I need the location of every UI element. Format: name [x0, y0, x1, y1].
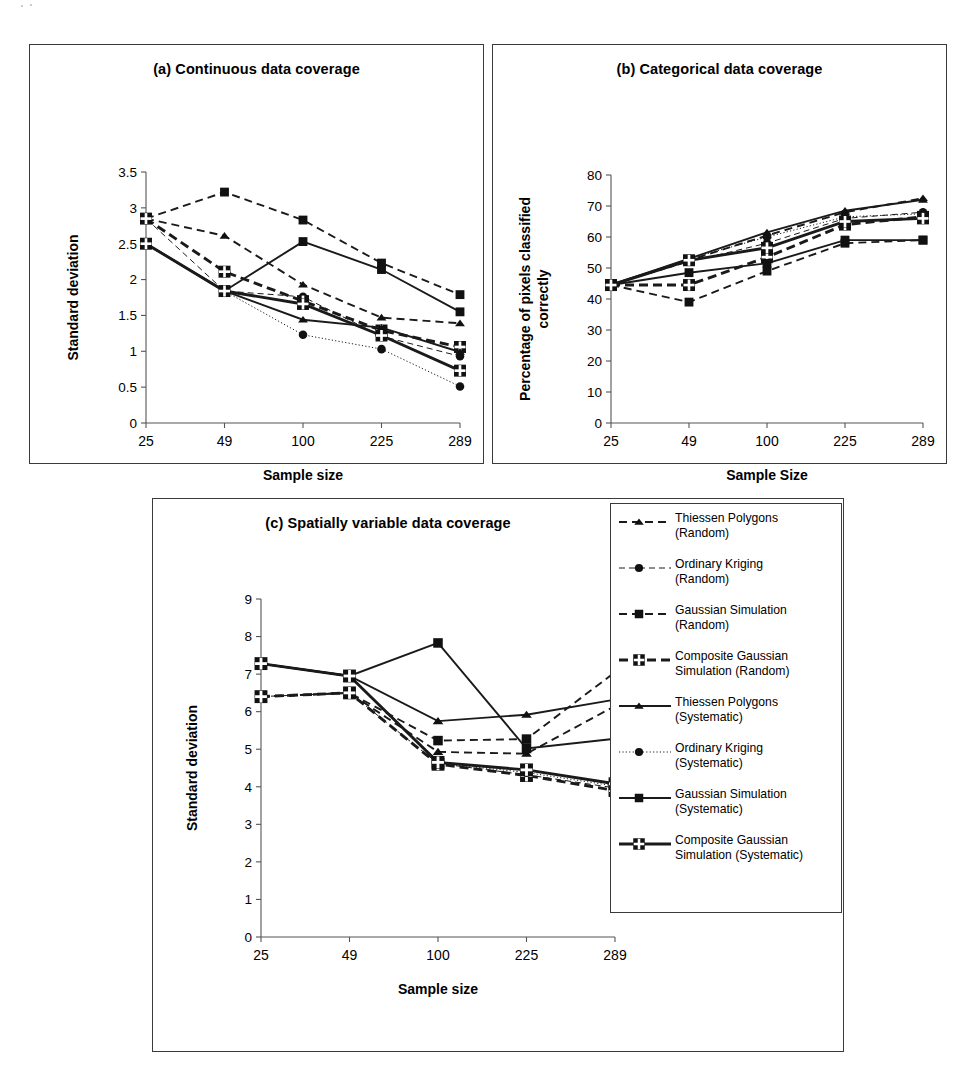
legend-key-ok_rand-icon — [617, 559, 673, 577]
data-point-marker — [761, 242, 773, 254]
data-point-marker — [763, 267, 772, 276]
series-ok_sys — [256, 659, 619, 791]
x-tick-label: 25 — [603, 433, 619, 449]
chart-a-plot-area: 00.511.522.533.52549100225289Sample size… — [30, 45, 485, 465]
y-tick-label: 2.5 — [118, 237, 137, 252]
y-axis-title: Standard deviation — [184, 705, 200, 831]
x-tick-label: 225 — [515, 947, 539, 963]
series-line — [261, 643, 615, 749]
y-tick-label: 3.5 — [118, 165, 137, 180]
legend-key-gs_sys-icon — [617, 789, 673, 807]
y-tick-label: 0 — [594, 416, 602, 431]
x-tick-label: 100 — [291, 433, 315, 449]
series-line — [261, 672, 615, 740]
legend-label-line2: (Random) — [675, 618, 787, 633]
data-point-marker — [220, 188, 229, 197]
series-line — [146, 244, 460, 387]
legend-label-line2: (Systematic) — [675, 802, 787, 817]
data-point-marker — [763, 233, 772, 242]
legend-label-line1: Composite Gaussian — [675, 833, 803, 848]
legend-key-tp_sys-icon — [617, 697, 673, 715]
chart-b-plot-area: 010203040506070802549100225289Sample Siz… — [493, 45, 948, 465]
legend-label-line1: Ordinary Kriging — [675, 557, 763, 572]
data-point-marker — [685, 268, 694, 277]
legend-label-cgs_rand: Composite GaussianSimulation (Random) — [673, 649, 789, 678]
data-point-marker — [919, 236, 928, 245]
legend-item-tp_rand: Thiessen Polygons(Random) — [617, 511, 837, 553]
legend-label-line1: Thiessen Polygons — [675, 511, 778, 526]
legend-item-ok_rand: Ordinary Kriging(Random) — [617, 557, 837, 599]
data-point-marker — [683, 279, 695, 291]
legend-item-cgs_rand: Composite GaussianSimulation (Random) — [617, 649, 837, 691]
x-tick-label: 49 — [342, 947, 358, 963]
x-tick-label: 225 — [370, 433, 394, 449]
legend-label-line1: Gaussian Simulation — [675, 787, 787, 802]
y-tick-label: 60 — [587, 230, 602, 245]
y-tick-label: 3 — [244, 817, 252, 832]
legend-label-line2: (Random) — [675, 572, 763, 587]
data-point-marker — [298, 281, 308, 288]
data-point-marker — [255, 657, 268, 670]
legend-item-gs_sys: Gaussian Simulation(Systematic) — [617, 787, 837, 829]
series-ok_sys — [142, 239, 465, 390]
panel-continuous-data-coverage: (a) Continuous data coverage 00.511.522.… — [29, 44, 484, 464]
y-tick-label: 5 — [244, 742, 252, 757]
data-point-marker — [297, 298, 309, 310]
data-point-marker — [220, 232, 230, 239]
y-tick-label: 20 — [587, 354, 602, 369]
legend-key-tp_rand-icon — [617, 513, 673, 531]
data-point-marker — [377, 265, 386, 274]
data-point-marker — [255, 690, 268, 703]
data-point-marker — [917, 212, 929, 224]
data-point-marker — [377, 345, 386, 354]
x-tick-label: 100 — [426, 947, 450, 963]
legend-label-tp_rand: Thiessen Polygons(Random) — [673, 511, 778, 540]
y-tick-label: 0.5 — [118, 380, 137, 395]
y-tick-label: 7 — [244, 667, 252, 682]
data-point-marker — [841, 236, 850, 245]
y-axis-title-group: Percentage of pixels classifiedcorrectly — [517, 197, 551, 401]
x-tick-label: 225 — [833, 433, 857, 449]
y-tick-label: 6 — [244, 704, 252, 719]
data-point-marker — [432, 756, 445, 769]
data-point-marker — [299, 331, 308, 340]
y-tick-label: 2 — [129, 272, 137, 287]
legend-label-gs_sys: Gaussian Simulation(Systematic) — [673, 787, 787, 816]
data-point-marker — [343, 670, 356, 683]
data-point-marker — [839, 216, 851, 228]
data-point-marker — [219, 285, 231, 297]
y-tick-label: 4 — [244, 780, 252, 795]
y-tick-label: 1 — [244, 892, 252, 907]
y-tick-label: 3 — [129, 201, 137, 216]
x-tick-label: 49 — [217, 433, 233, 449]
y-tick-label: 80 — [587, 168, 602, 183]
y-tick-label: 70 — [587, 199, 602, 214]
y-tick-label: 10 — [587, 385, 602, 400]
series-cgs_sys — [140, 238, 466, 377]
data-point-marker — [522, 744, 532, 754]
x-tick-label: 289 — [911, 433, 935, 449]
legend-label-ok_sys: Ordinary Kriging(Systematic) — [673, 741, 763, 770]
y-tick-label: 1.5 — [118, 308, 137, 323]
x-axis-title: Sample size — [263, 467, 343, 483]
data-point-marker — [433, 638, 443, 648]
legend-key-cgs_sys-icon — [617, 835, 673, 853]
y-axis-title: Standard deviation — [65, 234, 81, 360]
legend-item-gs_rand: Gaussian Simulation(Random) — [617, 603, 837, 645]
y-tick-label: 1 — [129, 344, 137, 359]
chart-svg-a: 00.511.522.533.52549100225289Sample size… — [30, 45, 485, 465]
legend-key-gs_rand-icon — [617, 605, 673, 623]
legend-label-line1: Thiessen Polygons — [675, 695, 778, 710]
legend-label-line2: (Random) — [675, 526, 778, 541]
legend-label-line2: Simulation (Systematic) — [675, 848, 803, 863]
legend-item-ok_sys: Ordinary Kriging(Systematic) — [617, 741, 837, 783]
y-tick-label: 9 — [244, 592, 252, 607]
legend-label-line2: Simulation (Random) — [675, 664, 789, 679]
data-point-marker — [685, 298, 694, 307]
data-point-marker — [454, 365, 466, 377]
data-point-marker — [219, 266, 231, 278]
legend-label-line1: Ordinary Kriging — [675, 741, 763, 756]
y-tick-label: 0 — [129, 416, 137, 431]
y-tick-label: 50 — [587, 261, 602, 276]
x-tick-label: 289 — [448, 433, 472, 449]
